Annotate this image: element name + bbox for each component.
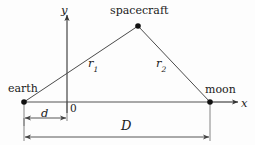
segment-r1 xyxy=(24,26,138,102)
r2-base: r xyxy=(156,56,162,70)
origin-label: 0 xyxy=(70,103,77,114)
x-axis-label: x xyxy=(241,98,248,110)
spacecraft-label: spacecraft xyxy=(110,5,168,16)
earth-label: earth xyxy=(8,83,38,94)
segment-r2 xyxy=(138,26,210,102)
r1-subscript: 1 xyxy=(94,65,99,74)
physics-diagram: earth moon spacecraft 0 x y r1 r2 d D xyxy=(0,0,255,145)
y-axis-label: y xyxy=(61,5,68,17)
d-label: d xyxy=(41,108,48,120)
r2-subscript: 2 xyxy=(162,65,167,74)
r1-label: r1 xyxy=(88,58,98,72)
spacecraft-point xyxy=(135,23,141,29)
r2-label: r2 xyxy=(156,58,166,72)
r1-base: r xyxy=(88,56,94,70)
moon-label: moon xyxy=(205,84,236,95)
moon-point xyxy=(207,99,213,105)
earth-point xyxy=(21,99,27,105)
D-label: D xyxy=(121,119,131,132)
